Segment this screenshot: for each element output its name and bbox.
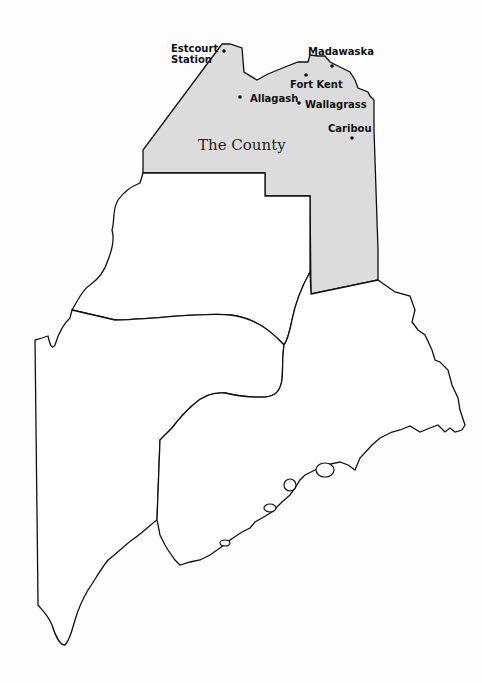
island xyxy=(284,479,296,491)
island xyxy=(316,463,334,477)
island xyxy=(264,504,276,512)
the-county-label: The County xyxy=(198,136,286,154)
estcourt-line: Estcourt xyxy=(171,43,218,54)
wallagrass-label: Wallagrass xyxy=(305,99,367,110)
allagash-dot[interactable] xyxy=(238,95,242,99)
station-line: Station xyxy=(171,54,218,65)
caribou-label: Caribou xyxy=(328,123,372,134)
map-outline xyxy=(0,0,482,683)
fort-kent-dot[interactable] xyxy=(304,73,308,77)
island xyxy=(220,540,230,546)
estcourt-station-label: Estcourt Station xyxy=(171,43,218,65)
estcourt-station-dot[interactable] xyxy=(222,49,226,53)
madawaska-dot[interactable] xyxy=(330,64,334,68)
fort-kent-label: Fort Kent xyxy=(290,79,343,90)
maine-map: Estcourt Station Madawaska Fort Kent All… xyxy=(0,0,482,683)
allagash-label: Allagash xyxy=(250,93,298,104)
caribou-dot[interactable] xyxy=(350,136,354,140)
madawaska-label: Madawaska xyxy=(308,46,374,57)
